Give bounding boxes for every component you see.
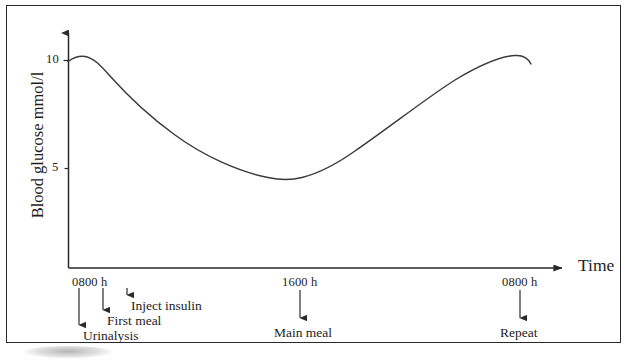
y-axis-title: Blood glucose mmol/l <box>28 40 48 250</box>
glucose-curve <box>68 55 531 179</box>
event-label-urinalysis: Urinalysis <box>83 328 139 344</box>
time-label-end: 0800 h <box>502 275 538 290</box>
figure-root: 10 5 Blood glucose mmol/l Time 0800 h 16… <box>0 0 630 364</box>
event-label-inject-insulin: Inject insulin <box>131 298 202 314</box>
event-label-repeat: Repeat <box>500 325 537 341</box>
event-label-first-meal: First meal <box>107 313 161 329</box>
x-axis-title: Time <box>578 255 614 276</box>
time-label-start: 0800 h <box>72 275 108 290</box>
time-label-mid: 1600 h <box>282 275 318 290</box>
y-axis-tick-label-5: 5 <box>52 160 58 175</box>
blood-glucose-plot <box>0 0 630 364</box>
event-label-main-meal: Main meal <box>274 325 332 341</box>
